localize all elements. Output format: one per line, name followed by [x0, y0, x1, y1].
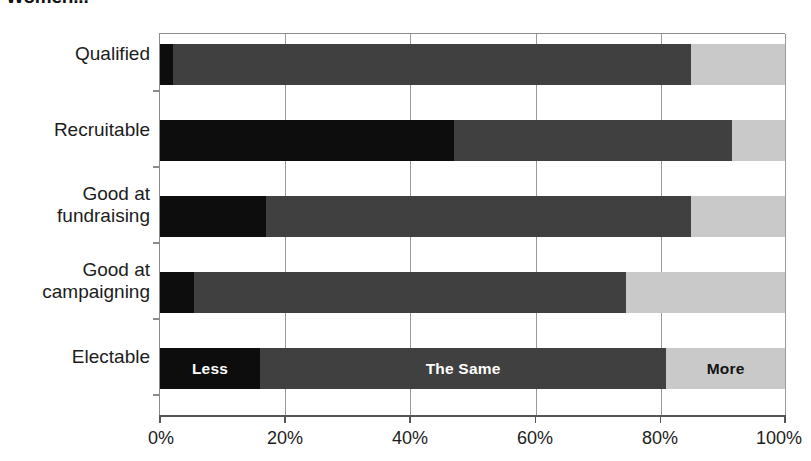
x-tick-80 — [660, 415, 662, 423]
bar-segment-more — [732, 120, 785, 161]
bar-segment-more: More — [666, 348, 785, 389]
x-tick-100 — [784, 415, 786, 423]
chart-title: Women... — [6, 0, 89, 8]
bar-segment-less — [160, 120, 454, 161]
y-tick-2 — [153, 166, 160, 168]
x-tick-0 — [159, 415, 161, 423]
x-tick-40 — [409, 415, 411, 423]
x-axis-label-80: 80% — [642, 428, 678, 449]
bar-row-good-at-fundraising — [160, 196, 785, 237]
y-axis-label-qualified: Qualified — [0, 43, 150, 65]
x-axis-label-100: 100% — [756, 428, 802, 449]
bar-segment-less — [160, 196, 266, 237]
x-axis-line — [159, 415, 786, 417]
x-axis-label-60: 60% — [517, 428, 553, 449]
x-tick-20 — [284, 415, 286, 423]
bar-segment-less: Less — [160, 348, 260, 389]
bar-row-electable: Less The Same More — [160, 348, 785, 389]
bar-row-recruitable — [160, 120, 785, 161]
stacked-bar-chart: Women... Qualified Recruitable Good at f… — [0, 0, 811, 461]
y-axis-label-electable: Electable — [0, 346, 150, 368]
x-axis-label-40: 40% — [392, 428, 428, 449]
bar-row-qualified — [160, 44, 785, 85]
bar-segment-less — [160, 272, 194, 313]
bar-segment-more — [626, 272, 785, 313]
bar-segment-the-same: The Same — [260, 348, 666, 389]
bar-segment-more — [691, 44, 785, 85]
x-tick-60 — [535, 415, 537, 423]
plot-area: Less The Same More — [159, 33, 785, 415]
y-tick-4 — [153, 318, 160, 320]
y-tick-5 — [153, 394, 160, 396]
legend-label-more: More — [707, 360, 745, 378]
bar-segment-more — [691, 196, 785, 237]
bar-segment-less — [160, 44, 173, 85]
bar-segment-the-same — [454, 120, 732, 161]
bar-row-good-at-campaigning — [160, 272, 785, 313]
legend-label-the-same: The Same — [426, 360, 501, 378]
x-axis-label-20: 20% — [267, 428, 303, 449]
y-axis-label-campaigning: Good at campaigning — [0, 259, 150, 303]
bar-segment-the-same — [173, 44, 692, 85]
bar-segment-the-same — [266, 196, 691, 237]
y-axis-labels: Qualified Recruitable Good at fundraisin… — [0, 33, 150, 415]
y-tick-1 — [153, 90, 160, 92]
legend-label-less: Less — [192, 360, 228, 378]
y-axis-label-recruitable: Recruitable — [0, 119, 150, 141]
bar-segment-the-same — [194, 272, 625, 313]
x-axis-label-0: 0% — [148, 428, 174, 449]
y-axis-label-fundraising: Good at fundraising — [0, 183, 150, 227]
y-tick-3 — [153, 242, 160, 244]
